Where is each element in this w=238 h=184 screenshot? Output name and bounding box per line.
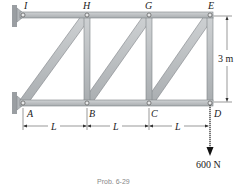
label-D: D xyxy=(213,108,222,119)
load-label: 600 N xyxy=(196,159,221,170)
span-label-2: L xyxy=(112,121,119,132)
pin-I xyxy=(21,13,25,17)
member-HB xyxy=(84,15,90,103)
label-G: G xyxy=(145,0,152,11)
member-top-chord xyxy=(20,12,213,18)
pin-G xyxy=(147,13,151,17)
pin-C xyxy=(147,101,151,105)
label-I: I xyxy=(23,0,28,11)
figure-caption: Prob. 6-29 xyxy=(97,178,130,184)
member-GC xyxy=(146,15,152,103)
member-BG xyxy=(84,12,152,106)
member-ED xyxy=(207,15,213,103)
pin-H xyxy=(85,13,89,17)
pin-B xyxy=(85,101,89,105)
member-bottom-chord xyxy=(20,100,213,106)
truss-members xyxy=(20,12,213,106)
label-E: E xyxy=(207,0,214,11)
truss-diagram: I H G E A B C D 3 m L L L 600 N xyxy=(0,0,238,184)
load-arrow xyxy=(207,105,214,156)
label-C: C xyxy=(151,108,158,119)
span-label-3: L xyxy=(174,121,181,132)
label-A: A xyxy=(26,108,34,119)
label-B: B xyxy=(89,108,95,119)
label-H: H xyxy=(82,0,91,11)
pin-A xyxy=(21,101,25,105)
height-label: 3 m xyxy=(218,53,234,64)
member-AH xyxy=(20,12,90,106)
member-CE xyxy=(146,12,213,106)
pin-D xyxy=(208,101,212,105)
pin-E xyxy=(208,13,212,17)
span-label-1: L xyxy=(50,121,57,132)
